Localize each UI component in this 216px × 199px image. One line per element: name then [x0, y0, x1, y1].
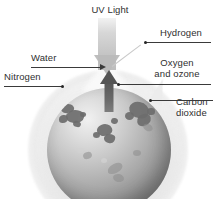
leader-dot-nitrogen [61, 85, 64, 88]
leader-arrowhead-water [100, 64, 106, 70]
label-carbon-line-1: Carbon [176, 97, 216, 108]
label-oxygen-and-ozone: Oxygen and ozone [141, 58, 213, 79]
leader-dot-carbon-dioxide [149, 99, 152, 102]
label-uv-light: UV Light [80, 5, 140, 16]
leader-line-hydrogen [145, 42, 211, 43]
leader-line-oxygen [119, 84, 211, 85]
label-oxygen-line-2: and ozone [141, 69, 213, 80]
leader-line-nitrogen [4, 86, 62, 87]
outgassing-arrowhead-icon [100, 70, 118, 84]
outgassing-arrow-shaft [105, 82, 114, 112]
landmass [147, 108, 155, 115]
label-hydrogen: Hydrogen [160, 28, 202, 39]
label-water: Water [31, 53, 56, 64]
landmass [93, 132, 100, 138]
landmass [101, 158, 107, 163]
landmass [125, 112, 134, 120]
landmass [133, 150, 141, 156]
leader-line-water [31, 67, 101, 68]
landmass [80, 112, 86, 117]
leader-dot-hydrogen [144, 41, 147, 44]
landmass [77, 148, 84, 153]
label-carbon-line-2: dioxide [176, 108, 216, 119]
leader-line-carbon-dioxide [151, 100, 213, 101]
atmosphere-diagram-figure: UV Light Hydrogen Water Nitrogen Oxygen … [0, 0, 216, 199]
label-nitrogen: Nitrogen [4, 72, 41, 83]
label-oxygen-line-1: Oxygen [141, 58, 213, 69]
leader-dot-oxygen [117, 83, 120, 86]
